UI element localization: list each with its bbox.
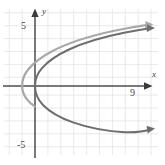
x-axis-label: x [152,70,156,79]
x-tick-label-9: 9 [130,88,135,98]
y-tick-label-negative-5: -5 [17,140,25,150]
curve-parabola-dark [35,25,155,134]
graph-figure: y x 5 -5 9 [0,0,165,165]
y-tick-label-5: 5 [21,21,26,31]
y-axis-label: y [42,7,46,16]
